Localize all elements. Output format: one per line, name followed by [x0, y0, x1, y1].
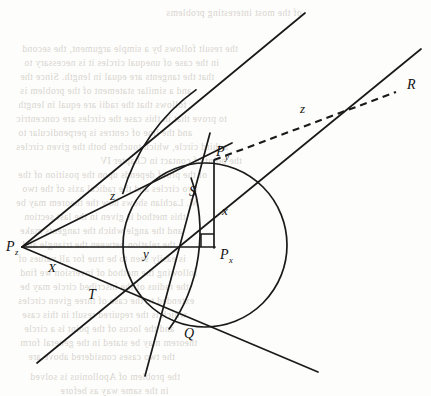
main-circle	[123, 163, 287, 327]
segment-label-y-horiz: y	[141, 246, 149, 261]
line-tangent-upper	[22, 13, 305, 247]
point-label-T: T	[88, 287, 97, 302]
construction-lines	[22, 13, 421, 376]
line-secant-T-R	[37, 49, 421, 363]
subscript-Py: y	[224, 152, 229, 162]
segment-label-X-lower: X	[47, 260, 57, 275]
point-label-Px: Px	[219, 247, 233, 265]
subscript-Pz: z	[14, 247, 19, 257]
geometry-figure: PzPyPxSTQR zzxyX	[0, 0, 431, 396]
right-angle-marker	[201, 234, 214, 247]
figure-page: of the most interesting problemsthe resu…	[0, 0, 431, 396]
segment-label-z-upper: z	[109, 188, 115, 203]
point-label-S: S	[189, 184, 196, 199]
point-label-Q: Q	[184, 326, 194, 341]
segment-label-z-dashed: z	[299, 101, 305, 116]
right-angle-square	[201, 234, 214, 247]
circle-arcs	[123, 89, 287, 329]
line-tangent-lower	[22, 247, 318, 372]
point-label-R: R	[406, 77, 416, 92]
arc-through-S-Q	[169, 178, 200, 330]
subscript-Px: x	[228, 255, 233, 265]
segment-label-x-vert: x	[221, 203, 228, 218]
point-label-Pz: Pz	[5, 239, 19, 257]
